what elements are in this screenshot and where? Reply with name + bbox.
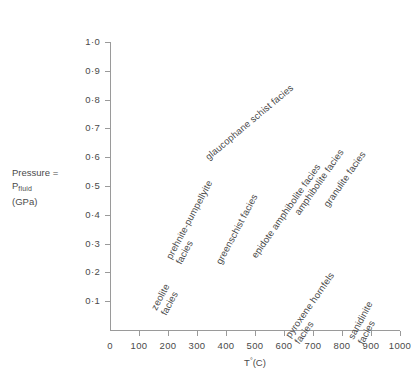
x-tick xyxy=(400,331,401,336)
facies-label-prehnite-pumpellyite-facies: prehnite-pumpellyitefacies xyxy=(164,178,225,266)
y-tick-label: 0·9 xyxy=(70,65,100,76)
metamorphic-facies-pt-diagram: 0·10·20·30·40·50·60·70·80·91·0 010020030… xyxy=(0,0,414,384)
x-tick xyxy=(342,331,343,336)
y-axis-title-subscript: fluid xyxy=(18,185,32,192)
x-axis-title-unit: (C) xyxy=(253,357,266,368)
y-tick-label: 0·5 xyxy=(70,180,100,191)
facies-label-epidote-amphibolite-facies: epidote amphibolite facies xyxy=(249,162,323,260)
x-tick xyxy=(197,331,198,336)
y-tick-label: 0·6 xyxy=(70,151,100,162)
x-axis-title: T°(C) xyxy=(110,357,400,368)
x-tick xyxy=(226,331,227,336)
y-tick xyxy=(105,244,110,245)
facies-label-line: glaucophane schist facies xyxy=(203,82,295,162)
facies-label-sanidinite-facies: sanidinitefacies xyxy=(346,299,385,346)
facies-label-pyroxene-hornfels-facies: pyroxene hornfelsfacies xyxy=(283,270,345,346)
y-tick xyxy=(105,186,110,187)
y-tick-label: 0·7 xyxy=(70,122,100,133)
y-tick xyxy=(105,215,110,216)
x-tick xyxy=(168,331,169,336)
y-tick xyxy=(105,128,110,129)
y-axis-title-line1: Pressure = xyxy=(12,166,58,179)
y-tick-label: 1·0 xyxy=(70,36,100,47)
y-axis-line xyxy=(110,42,111,331)
x-tick xyxy=(139,331,140,336)
y-tick xyxy=(105,157,110,158)
y-tick xyxy=(105,42,110,43)
y-axis-title: Pressure = Pfluid (GPa) xyxy=(12,166,58,208)
y-tick xyxy=(105,71,110,72)
y-tick-label: 0·4 xyxy=(70,209,100,220)
x-tick xyxy=(255,331,256,336)
y-axis-title-units: (GPa) xyxy=(12,195,58,208)
y-tick xyxy=(105,100,110,101)
facies-label-zeolite-facies: zeolitefacies xyxy=(149,282,182,317)
facies-label-line: epidote amphibolite facies xyxy=(249,162,323,260)
y-tick-label: 0·2 xyxy=(70,266,100,277)
x-tick-label: 1000 xyxy=(380,340,414,351)
y-tick xyxy=(105,272,110,273)
facies-label-glaucophane-schist-facies: glaucophane schist facies xyxy=(203,82,295,162)
y-tick-label: 0·3 xyxy=(70,238,100,249)
x-tick xyxy=(313,331,314,336)
y-axis-title-line2: Pfluid xyxy=(12,179,58,195)
y-tick-label: 0·8 xyxy=(70,94,100,105)
y-tick-label: 0·1 xyxy=(70,295,100,306)
y-tick xyxy=(105,301,110,302)
